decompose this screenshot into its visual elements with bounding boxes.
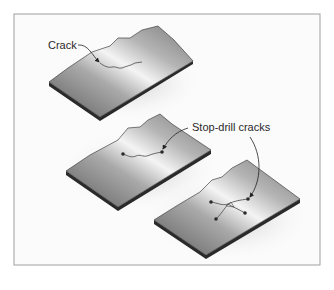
drill-hole (246, 197, 250, 201)
stop-drill-label: Stop-drill cracks (192, 121, 271, 133)
drill-hole (121, 152, 125, 156)
stop-drill-diagram: Crack Stop-drill cracks (0, 0, 334, 290)
drill-hole (243, 211, 247, 215)
drill-hole (209, 200, 213, 204)
drill-hole (160, 150, 164, 154)
crack-label: Crack (48, 39, 77, 51)
drill-hole (214, 217, 218, 221)
